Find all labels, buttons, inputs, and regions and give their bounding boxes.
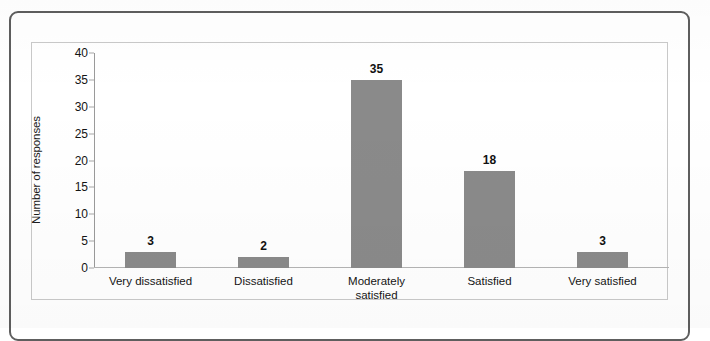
bar-value-label: 3 (599, 234, 606, 248)
y-axis-tick-label: 0 (81, 261, 88, 275)
bar-slot: 3 (546, 53, 659, 268)
x-axis-tick-label-line: Very satisfied (548, 275, 657, 289)
y-axis-title: Number of responses (28, 95, 44, 245)
y-axis-tick-label: 30 (75, 100, 88, 114)
bar-value-label: 3 (147, 234, 154, 248)
x-axis-tick-label-line: satisfied (322, 289, 431, 303)
x-axis-tick-labels: Very dissatisfiedDissatisfiedModeratelys… (94, 275, 659, 302)
y-axis-tick-label: 40 (75, 46, 88, 60)
bar: 3 (125, 252, 176, 268)
bar-slot: 3 (94, 53, 207, 268)
bar-slot: 2 (207, 53, 320, 268)
y-axis-tick-label: 15 (75, 180, 88, 194)
y-axis-tick-label: 35 (75, 73, 88, 87)
bar-value-label: 2 (260, 239, 267, 253)
bar-slot: 18 (433, 53, 546, 268)
x-axis-tick-label: Very satisfied (546, 275, 659, 302)
x-axis-tick-label: Very dissatisfied (94, 275, 207, 302)
x-axis-tick-label-line: Moderately (322, 275, 431, 289)
x-axis-tick-label: Satisfied (433, 275, 546, 302)
bar-value-label: 35 (370, 62, 383, 76)
x-axis-tick-label: Dissatisfied (207, 275, 320, 302)
bar: 35 (351, 80, 402, 268)
bar-value-label: 18 (483, 153, 496, 167)
x-axis-tick-label-line: Dissatisfied (209, 275, 318, 289)
y-axis-tick-label: 5 (81, 234, 88, 248)
plot-area: 0510152025303540 3235183 (94, 53, 659, 268)
y-axis-tick-label: 10 (75, 207, 88, 221)
x-axis-tick-label-line: Satisfied (435, 275, 544, 289)
bar-chart: Number of responses 0510152025303540 323… (31, 42, 668, 300)
x-axis-tick-label-line: Very dissatisfied (96, 275, 205, 289)
bar-series: 3235183 (94, 53, 659, 268)
bar-slot: 35 (320, 53, 433, 268)
bar: 18 (464, 171, 515, 268)
x-axis-tick-label: Moderatelysatisfied (320, 275, 433, 302)
y-axis-tick-label: 25 (75, 127, 88, 141)
y-axis-tick-label: 20 (75, 154, 88, 168)
bar: 2 (238, 257, 289, 268)
bar: 3 (577, 252, 628, 268)
